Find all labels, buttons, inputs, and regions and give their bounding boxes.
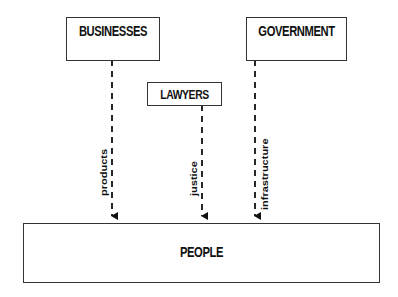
node-people: PEOPLE bbox=[23, 223, 380, 283]
edge-label-justice: justice bbox=[188, 161, 198, 196]
node-government-label: GOVERNMENT bbox=[257, 23, 336, 39]
node-people-label: PEOPLE bbox=[60, 244, 344, 260]
node-businesses: BUSINESSES bbox=[66, 17, 160, 61]
node-lawyers-label: LAWYERS bbox=[155, 87, 213, 102]
node-businesses-label: BUSINESSES bbox=[76, 23, 150, 39]
node-lawyers: LAWYERS bbox=[147, 82, 222, 106]
edge-label-infrastructure: infrastructure bbox=[259, 138, 269, 210]
node-government: GOVERNMENT bbox=[246, 17, 347, 61]
edge-label-products: products bbox=[98, 149, 108, 196]
